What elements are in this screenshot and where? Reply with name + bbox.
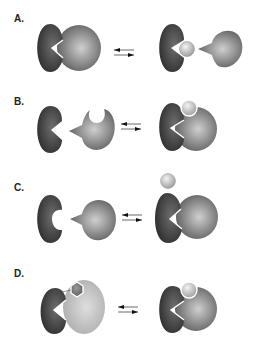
dark-subunit	[37, 106, 62, 153]
panel-b-left-state	[37, 106, 115, 153]
light-subunit	[57, 25, 101, 71]
panel-label-d: D.	[14, 268, 24, 279]
equilibrium-arrows-icon	[121, 122, 141, 131]
panel-c-right-complex	[155, 174, 218, 244]
ligand-ball	[181, 100, 197, 116]
equilibrium-arrows-icon	[122, 213, 142, 222]
panel-d-left-complex	[41, 280, 105, 334]
panel-c-left-state	[37, 195, 116, 243]
panel-c	[37, 174, 218, 244]
hexagon-ligand-icon	[71, 282, 83, 297]
figure-canvas	[0, 0, 260, 342]
ligand-ball	[181, 282, 197, 298]
panel-d-right-complex	[159, 282, 217, 333]
panel-label-b: B.	[14, 96, 24, 107]
mid-subunit	[176, 195, 218, 239]
panel-b	[37, 100, 217, 153]
mid-subunit-with-point	[198, 31, 242, 67]
panel-label-c: C.	[14, 182, 24, 193]
dark-subunit	[41, 288, 66, 334]
dark-subunit-c-notch	[37, 195, 62, 243]
panel-d	[41, 280, 217, 334]
equilibrium-arrows-icon	[118, 305, 138, 314]
panel-a	[37, 24, 242, 72]
panel-a-left-complex	[37, 24, 101, 72]
mid-subunit-with-notch	[69, 109, 115, 150]
equilibrium-arrows-icon	[114, 48, 134, 57]
panel-b-right-complex	[159, 100, 217, 151]
ligand-ball	[161, 174, 176, 189]
ligand-ball	[180, 42, 195, 57]
panel-label-a: A.	[14, 13, 24, 24]
panel-a-right-state	[159, 24, 242, 72]
mid-subunit-with-point	[70, 200, 116, 240]
light-subunit	[63, 280, 105, 334]
